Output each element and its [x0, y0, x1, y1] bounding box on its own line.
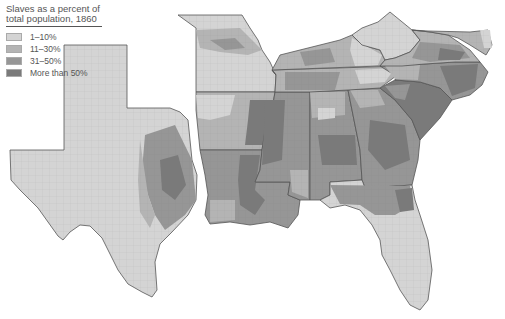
legend-swatch — [6, 33, 22, 41]
legend-label: 1–10% — [30, 32, 56, 42]
legend-item-31-50: 31–50% — [6, 55, 102, 66]
legend-title: Slaves as a percent of total population,… — [6, 4, 102, 27]
legend-label: 31–50% — [30, 56, 61, 66]
legend-label: More than 50% — [30, 68, 88, 78]
legend-swatch — [6, 57, 22, 65]
map-legend: Slaves as a percent of total population,… — [6, 4, 102, 79]
legend-item-11-30: 11–30% — [6, 43, 102, 54]
legend-item-over-50: More than 50% — [6, 67, 102, 78]
legend-swatch — [6, 69, 22, 77]
state-florida — [320, 180, 432, 310]
legend-title-line2: total population, 1860 — [6, 14, 102, 24]
legend-item-1-10: 1–10% — [6, 31, 102, 42]
legend-swatch — [6, 45, 22, 53]
state-missouri — [178, 15, 276, 92]
legend-label: 11–30% — [30, 44, 61, 54]
state-texas — [10, 45, 197, 297]
